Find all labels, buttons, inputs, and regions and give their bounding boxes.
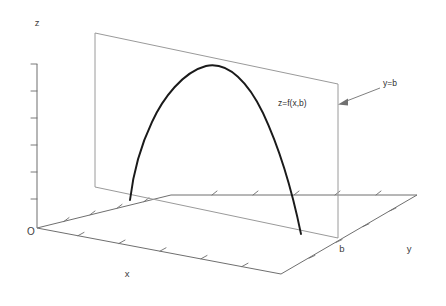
plane-leader-group [338, 88, 380, 106]
plane-leader-arrowhead [338, 99, 348, 106]
y-axis-label: y [407, 243, 412, 254]
curve-equation-label: z=f(x,b) [278, 98, 307, 108]
origin-label: O [27, 226, 35, 237]
b-point-label: b [339, 243, 344, 254]
z-axis-label: z [35, 17, 40, 28]
back-tick-5 [376, 191, 381, 195]
plane-equation-label: y=b [383, 78, 397, 88]
x-axis-label: x [125, 268, 130, 279]
plane-leader-line [344, 88, 380, 102]
cross-section-diagram: z O x y b y=b z=f(x,b) [0, 0, 446, 306]
z-axis-group [31, 64, 37, 228]
figure-container: z O x y b y=b z=f(x,b) [0, 0, 446, 306]
